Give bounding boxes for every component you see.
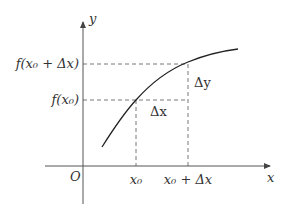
x-axis-label: x: [267, 170, 275, 185]
delta-y-label: Δy: [194, 75, 211, 90]
y-tick-f-x0: f(x₀): [51, 92, 80, 107]
delta-x-label: Δx: [150, 104, 167, 119]
y-axis-label: y: [88, 11, 97, 26]
y-tick-f-x0-dx: f(x₀ + Δx): [15, 56, 79, 71]
origin-label: O: [70, 169, 81, 184]
x-tick-x0: x₀: [130, 172, 143, 187]
x-tick-x0-dx: x₀ + Δx: [164, 172, 213, 187]
diagram-canvas: y x O f(x₀ + Δx) f(x₀) x₀ x₀ + Δx Δx Δy: [0, 0, 288, 216]
